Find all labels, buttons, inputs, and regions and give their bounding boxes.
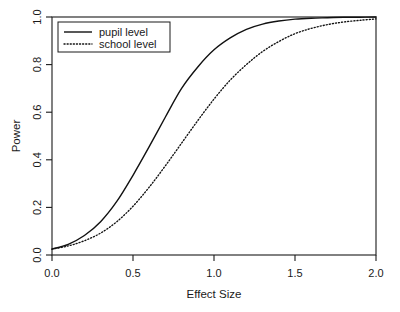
x-tick-label: 1.5	[287, 267, 302, 279]
y-tick-label: 0.6	[31, 105, 43, 120]
chart-canvas: 0.0 0.5 1.0 1.5 2.0 0.0 0.2 0.4 0.6 0.8 …	[0, 0, 400, 312]
y-tick-label: 0.0	[31, 247, 43, 262]
y-tick-label: 0.2	[31, 200, 43, 215]
legend-label-school-level: school level	[99, 38, 156, 50]
x-axis-title: Effect Size	[187, 288, 242, 300]
x-tick-label: 0.0	[44, 267, 59, 279]
x-tick-label: 2.0	[368, 267, 383, 279]
x-axis-tick-labels: 0.0 0.5 1.0 1.5 2.0	[44, 267, 383, 279]
y-axis-tick-labels: 0.0 0.2 0.4 0.6 0.8 1.0	[31, 9, 43, 262]
series-line-school-level	[52, 19, 376, 249]
x-tick-label: 1.0	[206, 267, 221, 279]
y-axis-ticks	[46, 17, 52, 255]
x-axis-ticks	[52, 255, 376, 261]
legend-label-pupil-level: pupil level	[99, 26, 148, 38]
y-tick-label: 0.8	[31, 57, 43, 72]
x-tick-label: 0.5	[125, 267, 140, 279]
legend: pupil level school level	[58, 22, 170, 52]
y-tick-label: 0.4	[31, 152, 43, 167]
y-tick-label: 1.0	[31, 9, 43, 24]
plot-frame	[52, 17, 376, 255]
power-curve-chart: 0.0 0.5 1.0 1.5 2.0 0.0 0.2 0.4 0.6 0.8 …	[0, 0, 400, 312]
y-axis-title: Power	[10, 120, 22, 153]
